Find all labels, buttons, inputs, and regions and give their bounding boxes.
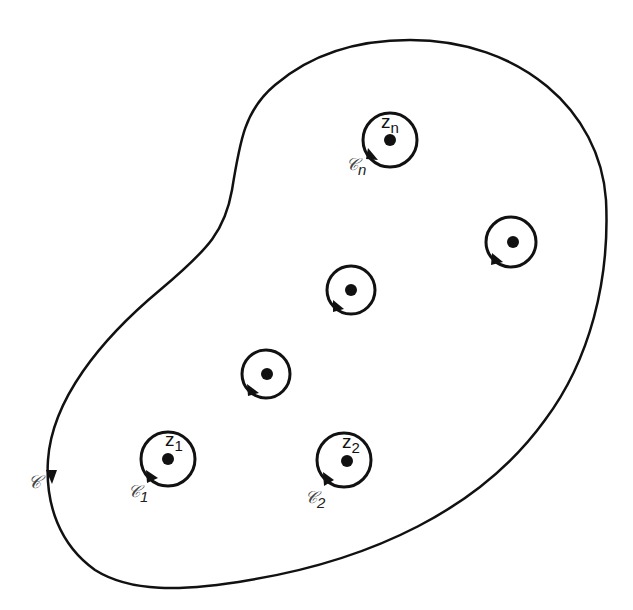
contour-arrow-icon	[333, 300, 344, 312]
outer-contour-label: 𝒞	[28, 471, 46, 492]
point-label-z1: z1	[165, 429, 183, 454]
outer-contour-c	[48, 40, 607, 588]
singularity-z1: z1 𝒞1	[128, 429, 195, 505]
singularity-zn: zn 𝒞n	[346, 111, 417, 178]
contour-arrow-icon	[366, 148, 378, 160]
contour-label-cn: 𝒞n	[346, 154, 366, 178]
contour-arrow-icon	[491, 253, 503, 265]
contour-arrow-icon	[247, 384, 259, 396]
point	[261, 368, 273, 380]
point-z2	[341, 455, 353, 467]
point-z1	[162, 453, 174, 465]
singularity-z2: z2 𝒞2	[305, 431, 371, 511]
singularity-left-middle	[242, 350, 290, 398]
contour-diagram: 𝒞 zn 𝒞n z1 𝒞1 z2 𝒞2	[0, 0, 633, 610]
point	[507, 236, 519, 248]
singularity-right	[486, 217, 536, 267]
contour-label-c2: 𝒞2	[305, 487, 326, 511]
point	[345, 284, 357, 296]
contour-label-c1: 𝒞1	[128, 481, 148, 505]
singularity-middle	[327, 266, 375, 314]
